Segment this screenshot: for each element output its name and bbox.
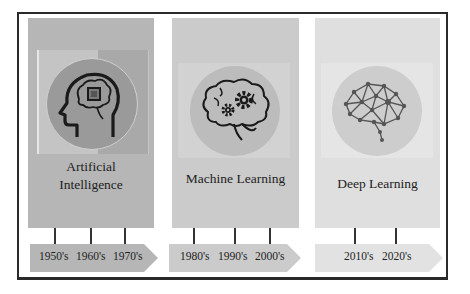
era-title-line1: Artificial <box>28 158 154 176</box>
decade-label: 1950's <box>39 250 69 262</box>
decade-label: 1960's <box>76 250 106 262</box>
neural-network-brain-icon <box>332 66 422 156</box>
decade-label: 1990's <box>218 250 248 262</box>
era-title-line2: Intelligence <box>28 176 154 194</box>
era-title-line1: Machine Learning <box>172 170 299 188</box>
era-title-ai: Artificial Intelligence <box>28 158 154 194</box>
head-chip-brain-icon <box>46 58 138 150</box>
era-title-line1: Deep Learning <box>315 175 440 193</box>
decade-label: 1980's <box>180 250 210 262</box>
decade-label: 2020's <box>382 250 412 262</box>
era-panel-ai: Artificial Intelligence <box>28 18 154 228</box>
decade-label: 2000's <box>255 250 285 262</box>
decade-label: 2010's <box>344 250 374 262</box>
era-title-ml: Machine Learning <box>172 170 299 188</box>
era-panel-ml: Machine Learning <box>172 18 299 228</box>
decade-label: 1970's <box>113 250 143 262</box>
brain-gears-icon <box>190 66 280 156</box>
era-panel-dl: Deep Learning <box>315 18 440 228</box>
timeline-arrow-dl <box>315 244 443 272</box>
era-title-dl: Deep Learning <box>315 175 440 193</box>
